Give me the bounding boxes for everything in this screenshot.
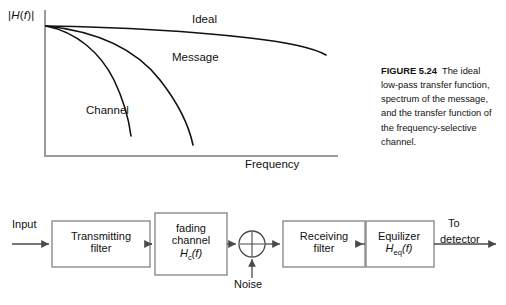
eq-line1: Equilizer bbox=[378, 230, 420, 242]
figure-caption-text: The ideal low-pass transfer function, sp… bbox=[381, 66, 492, 147]
rx-line2: filter bbox=[314, 242, 335, 254]
block-label-fading-channel: fading channel Hc(f) bbox=[157, 222, 225, 262]
fading-line2: channel bbox=[172, 234, 211, 246]
tx-line1: Transmitting bbox=[71, 230, 131, 242]
system-block-diagram: Input Transmitting filter fading channel… bbox=[0, 200, 506, 305]
block-label-receiving-filter: Receiving filter bbox=[285, 230, 363, 255]
output-label-line2: detector bbox=[440, 233, 480, 245]
figure-container: |H(f)| Ideal Message Channel Frequency F… bbox=[0, 0, 506, 305]
block-label-equalizer: Equilizer Heq(f) bbox=[368, 230, 430, 258]
noise-label: Noise bbox=[234, 278, 262, 290]
fading-line1: fading bbox=[176, 222, 206, 234]
output-label-line1: To bbox=[448, 217, 460, 229]
curve-label-ideal: Ideal bbox=[192, 14, 217, 26]
x-axis-label: Frequency bbox=[245, 159, 299, 171]
figure-caption: FIGURE 5.24 The ideal low-pass transfer … bbox=[381, 64, 499, 149]
y-axis-label: |H(f)| bbox=[8, 10, 34, 22]
input-label: Input bbox=[12, 218, 36, 230]
tx-line2: filter bbox=[91, 242, 112, 254]
rx-line1: Receiving bbox=[300, 230, 348, 242]
curve-channel bbox=[46, 26, 131, 136]
fading-transfer-function: Hc(f) bbox=[180, 247, 202, 259]
figure-caption-label: FIGURE 5.24 bbox=[381, 66, 437, 76]
curve-message bbox=[46, 26, 193, 145]
curve-label-message: Message bbox=[172, 52, 219, 64]
transfer-function-plot: |H(f)| Ideal Message Channel Frequency bbox=[0, 0, 350, 185]
curve-label-channel: Channel bbox=[86, 105, 129, 117]
eq-transfer-function: Heq(f) bbox=[386, 242, 413, 254]
block-label-transmitting-filter: Transmitting filter bbox=[55, 230, 147, 255]
